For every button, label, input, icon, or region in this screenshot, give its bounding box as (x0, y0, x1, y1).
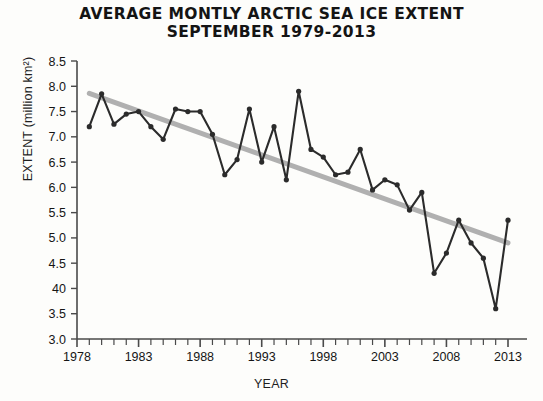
x-axis-tick-label: 1993 (248, 350, 276, 364)
data-point (148, 124, 153, 129)
y-axis-tick-label: 4.5 (49, 257, 66, 271)
data-point (419, 190, 424, 195)
y-axis-tick-label: 7.5 (49, 105, 66, 119)
data-point (111, 122, 116, 127)
chart-figure: AVERAGE MONTLY ARCTIC SEA ICE EXTENT SEP… (0, 0, 543, 401)
data-point (234, 157, 239, 162)
data-point (247, 106, 252, 111)
data-point (185, 109, 190, 114)
data-point-markers (87, 89, 511, 312)
data-point (432, 271, 437, 276)
x-axis-tick-labels: 19781983198819931998200320082013 (63, 350, 522, 364)
x-axis-tick-label: 2013 (494, 350, 522, 364)
data-point (173, 106, 178, 111)
x-axis-tick-label: 1998 (309, 350, 337, 364)
data-point (259, 159, 264, 164)
data-point (321, 154, 326, 159)
x-axis-tick-label: 2003 (371, 350, 399, 364)
x-axis-tick-label: 2008 (433, 350, 461, 364)
data-point (395, 182, 400, 187)
y-axis-tick-label: 5.0 (49, 231, 66, 245)
y-axis-tick-label: 6.0 (49, 181, 66, 195)
data-point (87, 124, 92, 129)
y-axis-tick-label: 3.0 (49, 333, 66, 347)
trend-line (89, 93, 508, 243)
y-axis-tick-label: 8.5 (49, 55, 66, 69)
x-axis-tick-label: 1983 (125, 350, 153, 364)
data-point (407, 208, 412, 213)
data-point (222, 172, 227, 177)
data-point (136, 109, 141, 114)
data-point (124, 111, 129, 116)
x-axis-tick-label: 1978 (63, 350, 91, 364)
data-line (89, 91, 508, 308)
data-point (370, 187, 375, 192)
chart-plot-area: 8.58.07.57.06.56.05.55.04.5403.53.0 1978… (0, 0, 543, 401)
y-axis-tick-label: 7.0 (49, 130, 66, 144)
data-point (271, 124, 276, 129)
y-axis-tick-label: 5.5 (49, 206, 66, 220)
data-point (296, 89, 301, 94)
data-point (505, 218, 510, 223)
x-axis-ticks (77, 339, 508, 347)
data-point (308, 147, 313, 152)
data-point (444, 250, 449, 255)
data-point (358, 147, 363, 152)
data-point (161, 137, 166, 142)
y-axis-title: EXTENT (million km²) (18, 29, 36, 209)
data-point (198, 109, 203, 114)
x-axis-tick-label: 1988 (186, 350, 214, 364)
y-axis-tick-labels: 8.58.07.57.06.56.05.55.04.5403.53.0 (49, 55, 66, 347)
data-point (481, 256, 486, 261)
y-axis-title-text: EXTENT (million km²) (21, 57, 35, 182)
data-point (333, 172, 338, 177)
x-axis-title-text: YEAR (254, 377, 289, 391)
data-point (493, 306, 498, 311)
y-axis-tick-label: 3.5 (49, 307, 66, 321)
chart-svg: 8.58.07.57.06.56.05.55.04.5403.53.0 1978… (0, 0, 543, 401)
y-axis-ticks (71, 61, 77, 339)
data-point (382, 177, 387, 182)
data-point (456, 218, 461, 223)
x-axis-title: YEAR (0, 374, 543, 392)
data-point (210, 132, 215, 137)
y-axis-tick-label: 40 (52, 282, 66, 296)
y-axis-tick-label: 6.5 (49, 156, 66, 170)
data-point (99, 91, 104, 96)
data-point (345, 170, 350, 175)
y-axis-tick-label: 8.0 (49, 80, 66, 94)
data-point (468, 240, 473, 245)
data-point (284, 177, 289, 182)
